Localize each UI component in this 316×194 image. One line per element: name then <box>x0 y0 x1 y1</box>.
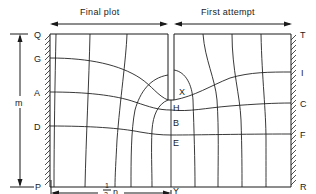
label-F: F <box>300 130 306 140</box>
label-X: X <box>179 87 185 97</box>
left-wall-hatching <box>45 35 50 185</box>
width-label-numerator: 1 <box>105 182 109 189</box>
boundary-frame <box>50 34 291 187</box>
width-label-denominator: 2 <box>104 191 108 194</box>
height-label-m: m <box>15 98 23 108</box>
width-label-n: n <box>113 187 118 194</box>
label-E: E <box>173 138 179 148</box>
label-R: R <box>300 182 307 192</box>
header-first-attempt: First attempt <box>201 7 255 17</box>
first-attempt-span-arrow <box>174 22 292 27</box>
label-I: I <box>301 68 304 78</box>
flow-net-diagram: Final plot First attempt <box>0 0 316 194</box>
label-Q: Q <box>34 30 41 40</box>
final-plot-equipotential-lines <box>54 34 168 187</box>
label-G: G <box>34 54 41 64</box>
label-B: B <box>173 118 179 128</box>
height-dimension <box>10 34 34 187</box>
right-wall-hatching <box>291 35 296 185</box>
label-P: P <box>35 182 41 192</box>
label-T: T <box>300 30 306 40</box>
label-Y: Y <box>173 186 179 194</box>
label-H: H <box>173 103 180 113</box>
label-C: C <box>300 99 307 109</box>
label-A: A <box>34 88 40 98</box>
label-D: D <box>34 122 41 132</box>
final-plot-span-arrow <box>50 22 168 27</box>
first-attempt-flow-lines <box>171 72 291 135</box>
header-final-plot: Final plot <box>80 7 120 17</box>
